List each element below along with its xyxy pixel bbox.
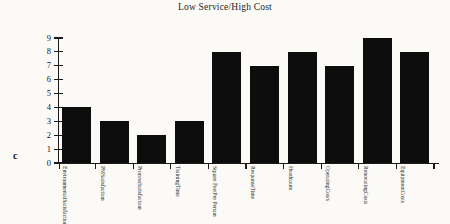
- bar: [62, 107, 91, 163]
- y-axis-tick-label: 9: [37, 34, 51, 43]
- category-label-line: Time: [250, 187, 256, 199]
- category-label-line: Costs: [400, 191, 406, 203]
- bar: [137, 135, 166, 163]
- category-label-line: PM: [100, 166, 106, 174]
- y-axis-tick-label: 0: [37, 159, 51, 168]
- y-axis-tick-label: 6: [37, 75, 51, 84]
- y-axis-tick-label: 3: [37, 117, 51, 126]
- x-axis-tick: [133, 164, 134, 169]
- x-axis-tick: [396, 164, 397, 169]
- category-label-line: Response: [250, 166, 256, 187]
- plot-area: 0123456789 EnvironmentalSatisfactionPMSa…: [0, 0, 450, 224]
- category-label-line: Equipment: [400, 166, 406, 191]
- chart-figure: Low Service/High Cost c 0123456789 Envir…: [0, 0, 450, 224]
- y-axis-tick: [54, 93, 63, 94]
- category-label-line: Training: [175, 166, 181, 185]
- x-axis-tick: [95, 164, 96, 169]
- bar: [325, 66, 354, 163]
- category-label-line: Satisfaction: [137, 183, 143, 209]
- bar: [250, 66, 279, 163]
- y-axis-tick-label: 2: [37, 131, 51, 140]
- category-label-line: Satisfaction: [100, 174, 106, 200]
- y-axis-tick-label: 7: [37, 61, 51, 70]
- category-label-line: Operating: [325, 166, 331, 188]
- x-axis-tick: [433, 164, 434, 169]
- y-axis-tick-label: 4: [37, 103, 51, 112]
- y-axis-tick-label: 1: [37, 145, 51, 154]
- category-label-line: Renovating: [363, 166, 369, 192]
- category-label-line: Costs: [363, 192, 369, 204]
- category-label-line: Headcount: [288, 166, 294, 190]
- x-axis-tick: [245, 164, 246, 169]
- x-axis-category-label: ResponseTime: [250, 166, 257, 199]
- category-label-line: Per Person: [212, 193, 218, 217]
- y-axis-tick: [54, 65, 63, 66]
- bar: [100, 121, 129, 163]
- x-axis-tick: [283, 164, 284, 169]
- category-label-line: Process: [137, 166, 143, 183]
- category-label-line: Square Feet: [212, 166, 218, 193]
- x-axis-category-label: TrainingTime: [174, 166, 181, 197]
- y-axis-line: [58, 37, 59, 164]
- y-axis-tick: [54, 79, 63, 80]
- bar: [175, 121, 204, 163]
- x-axis-tick: [321, 164, 322, 169]
- x-axis-category-label: ProcessSatisfaction: [137, 166, 144, 210]
- bar: [212, 52, 241, 163]
- category-label-line: Satisfaction: [62, 199, 68, 224]
- y-axis-tick-label: 8: [37, 47, 51, 56]
- bar: [400, 52, 429, 163]
- x-axis-category-label: EnvironmentalSatisfaction: [62, 166, 69, 224]
- x-axis-line: [58, 163, 439, 164]
- x-axis-category-label: EquipmentCosts: [400, 166, 407, 203]
- category-label-line: Costs: [325, 188, 331, 200]
- category-label-line: Time: [175, 185, 181, 197]
- bar: [288, 52, 317, 163]
- x-axis-tick: [59, 164, 60, 169]
- bar: [363, 38, 392, 163]
- x-axis-category-label: Square FeetPer Person: [212, 166, 219, 217]
- x-axis-tick: [208, 164, 209, 169]
- x-axis-tick: [170, 164, 171, 169]
- x-axis-category-label: Headcount: [287, 166, 294, 190]
- y-axis-tick: [54, 37, 63, 38]
- x-axis-category-label: RenovatingCosts: [362, 166, 369, 204]
- x-axis-category-label: OperatingCosts: [325, 166, 332, 201]
- y-axis-tick-label: 5: [37, 89, 51, 98]
- category-label-line: Environmental: [62, 166, 68, 199]
- y-axis-tick: [54, 51, 63, 52]
- x-axis-category-label: PMSatisfaction: [99, 166, 106, 201]
- x-axis-tick: [358, 164, 359, 169]
